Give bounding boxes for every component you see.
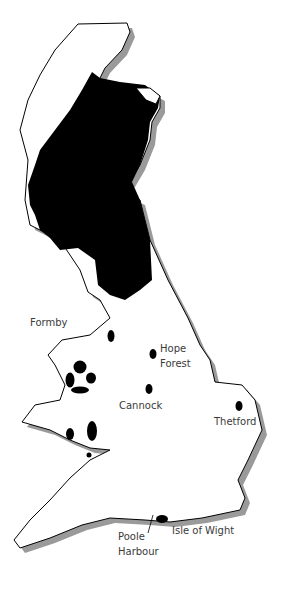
label-hope: Hope [160, 342, 186, 355]
marker-isle-of-wight [156, 515, 168, 523]
label-formby: Formby [30, 316, 67, 329]
marker-cannock [146, 384, 153, 394]
britain-map [0, 0, 287, 595]
label-forest: Forest [160, 357, 191, 370]
marker-hope-forest [150, 349, 157, 359]
marker-thetford [236, 401, 243, 411]
label-thetford: Thetford [214, 415, 256, 428]
label-isle-of-wight: Isle of Wight [172, 524, 234, 537]
label-poole: Poole [118, 530, 145, 543]
label-cannock: Cannock [119, 399, 162, 412]
marker-formby [108, 330, 115, 342]
label-harbour: Harbour [118, 545, 159, 558]
